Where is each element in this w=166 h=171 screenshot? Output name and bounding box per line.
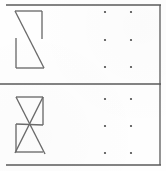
grid-dot-r2-c1 (104, 39, 106, 41)
grid-dot-r2-c1 (104, 125, 106, 127)
z-shape-figure (15, 11, 44, 68)
grid-dot-r1-c1 (104, 11, 106, 13)
grid-dot-r2-c2 (130, 125, 132, 127)
grid-dot-r1-c2 (130, 11, 132, 13)
figure-segment-left-mid-to-right-mid (16, 124, 43, 125)
grid-dot-r3-c2 (130, 152, 132, 154)
figure-sheet (0, 0, 166, 171)
figure-segment-main-diagonal (15, 11, 44, 68)
grid-dot-r3-c1 (104, 66, 106, 68)
grid-dot-r3-c2 (130, 66, 132, 68)
crossed-parallelogram-figure (15, 97, 45, 154)
grid-dot-r2-c2 (130, 39, 132, 41)
panel-top (15, 11, 132, 68)
grid-dot-r1-c1 (104, 98, 106, 100)
grid-dot-r3-c1 (104, 152, 106, 154)
figure-canvas (0, 0, 166, 171)
dot-grid-top (104, 11, 132, 68)
grid-dot-r1-c2 (130, 98, 132, 100)
panel-bottom (15, 97, 132, 154)
dot-grid-bottom (104, 98, 132, 154)
